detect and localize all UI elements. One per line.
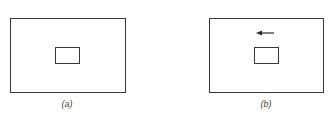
panel-b: (b) — [0, 0, 167, 120]
left-arrow-icon — [256, 29, 276, 37]
inner-rectangle-b — [254, 47, 279, 64]
panel-label-b: (b) — [246, 99, 286, 109]
